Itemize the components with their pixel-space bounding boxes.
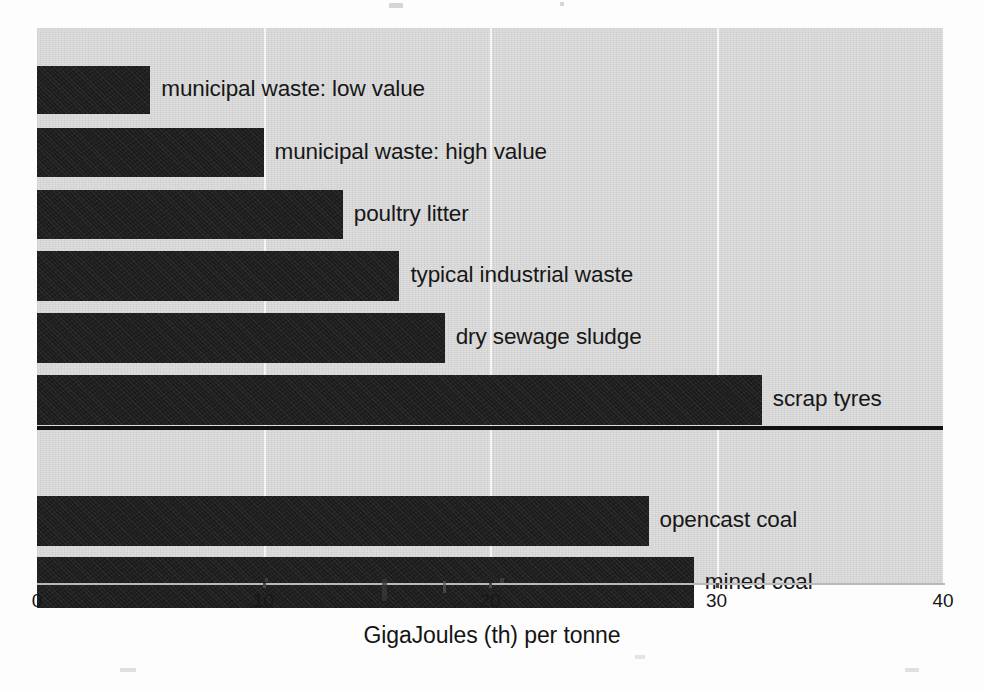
bar (37, 313, 445, 363)
group-separator-line (37, 426, 943, 430)
bar-label: scrap tyres (773, 386, 882, 412)
axis-tick-label: 30 (706, 590, 727, 612)
scan-artifact (120, 668, 136, 672)
gridline (717, 28, 719, 583)
bar (37, 496, 649, 546)
bar-label: municipal waste: low value (161, 76, 425, 102)
axis-tick-label: 20 (479, 590, 500, 612)
axis-tick-label: 10 (253, 590, 274, 612)
bar-label: opencast coal (660, 507, 798, 533)
axis-tick (489, 583, 492, 588)
bar (37, 251, 399, 301)
bar-chart-figure: municipal waste: low valuemunicipal wast… (0, 0, 984, 692)
axis-tick-label: 0 (32, 590, 43, 612)
bar (37, 66, 150, 114)
bar (37, 375, 762, 425)
bar-label: dry sewage sludge (456, 324, 642, 350)
scan-artifact (905, 668, 919, 672)
scan-artifact (389, 3, 403, 8)
bar (37, 190, 343, 239)
bar (37, 128, 264, 177)
bar-label: municipal waste: high value (275, 139, 547, 165)
scan-artifact (560, 2, 564, 6)
axis-tick-label: 40 (932, 590, 953, 612)
bar-label: poultry litter (354, 201, 469, 227)
x-axis-title: GigaJoules (th) per tonne (0, 622, 984, 649)
scan-artifact (635, 655, 645, 659)
axis-tick (263, 583, 266, 588)
bar-label: typical industrial waste (410, 262, 633, 288)
plot-area: municipal waste: low valuemunicipal wast… (37, 28, 943, 583)
axis-tick (716, 583, 719, 588)
